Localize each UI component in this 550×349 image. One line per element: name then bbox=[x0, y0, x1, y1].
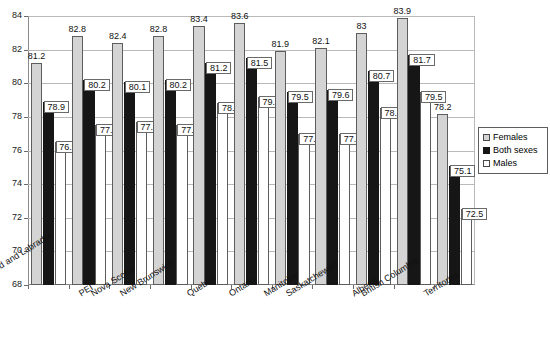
legend-swatch-males-icon bbox=[483, 160, 490, 167]
y-tick-label: 78 bbox=[0, 112, 22, 121]
bar-males bbox=[461, 209, 472, 285]
bar-value-label: 83.4 bbox=[186, 14, 211, 24]
bar-females bbox=[397, 18, 408, 285]
bar-value-label: 82.4 bbox=[105, 31, 130, 41]
x-tick-mark bbox=[28, 285, 29, 289]
y-tick-mark bbox=[24, 117, 28, 118]
bar-females bbox=[437, 114, 448, 285]
bar-both-sexes bbox=[408, 55, 419, 285]
bar-males bbox=[95, 125, 106, 285]
bar-females bbox=[356, 33, 367, 285]
bar-value-label: 78.2 bbox=[430, 102, 455, 112]
bar-value-label: 82.8 bbox=[65, 24, 90, 34]
bar-females bbox=[153, 36, 164, 285]
x-tick-mark bbox=[312, 285, 313, 289]
bar-both-sexes bbox=[165, 80, 176, 285]
legend-label: Both sexes bbox=[493, 144, 538, 157]
bar-value-label: 79.5 bbox=[288, 91, 313, 103]
bar-value-label: 83.6 bbox=[227, 11, 252, 21]
plot-area: 81.278.976.582.880.277.582.480.177.782.8… bbox=[28, 16, 475, 285]
bar-both-sexes bbox=[43, 102, 54, 285]
bar-both-sexes bbox=[327, 90, 338, 285]
y-tick-mark bbox=[24, 218, 28, 219]
bar-value-label: 81.2 bbox=[206, 62, 231, 74]
bar-females bbox=[193, 26, 204, 285]
bar-value-label: 79.6 bbox=[328, 89, 353, 101]
y-tick-mark bbox=[24, 16, 28, 17]
bar-both-sexes bbox=[287, 92, 298, 285]
bar-males bbox=[380, 108, 391, 285]
bar-value-label: 80.2 bbox=[84, 79, 109, 91]
bar-both-sexes bbox=[368, 71, 379, 285]
x-tick-mark bbox=[69, 285, 70, 289]
y-tick-label: 72 bbox=[0, 213, 22, 222]
bar-value-label: 80.1 bbox=[125, 81, 150, 93]
y-tick-label: 74 bbox=[0, 179, 22, 188]
legend-label: Females bbox=[493, 131, 528, 144]
bar-males bbox=[339, 134, 350, 285]
chart-legend: FemalesBoth sexesMales bbox=[478, 127, 548, 174]
y-tick-label: 82 bbox=[0, 45, 22, 54]
bar-value-label: 82.8 bbox=[146, 24, 171, 34]
y-tick-label: 84 bbox=[0, 11, 22, 20]
bar-value-label: 78.9 bbox=[44, 101, 69, 113]
bar-both-sexes bbox=[246, 58, 257, 285]
bar-females bbox=[112, 43, 123, 285]
bar-value-label: 82.1 bbox=[308, 36, 333, 46]
bar-value-label: 80.2 bbox=[166, 79, 191, 91]
y-tick-label: 68 bbox=[0, 280, 22, 289]
bar-value-label: 83.9 bbox=[390, 6, 415, 16]
legend-swatch-both-icon bbox=[483, 147, 490, 154]
bar-value-label: 83 bbox=[349, 21, 374, 31]
bar-females bbox=[234, 23, 245, 285]
bar-males bbox=[217, 103, 228, 285]
y-tick-mark bbox=[24, 83, 28, 84]
x-tick-mark bbox=[150, 285, 151, 289]
bar-value-label: 72.5 bbox=[462, 208, 487, 220]
gridline bbox=[28, 50, 475, 51]
bar-males bbox=[136, 122, 147, 285]
bar-value-label: 81.2 bbox=[24, 51, 49, 61]
bar-both-sexes bbox=[449, 166, 460, 285]
y-tick-mark bbox=[24, 151, 28, 152]
bar-both-sexes bbox=[83, 80, 94, 285]
legend-swatch-females-icon bbox=[483, 134, 490, 141]
y-tick-label: 80 bbox=[0, 78, 22, 87]
bar-females bbox=[31, 63, 42, 285]
bar-both-sexes bbox=[124, 82, 135, 285]
legend-item-females: Females bbox=[483, 131, 544, 144]
bar-females bbox=[315, 48, 326, 285]
y-tick-mark bbox=[24, 50, 28, 51]
bar-females bbox=[275, 51, 286, 285]
x-tick-mark bbox=[394, 285, 395, 289]
bar-value-label: 80.7 bbox=[369, 70, 394, 82]
bar-females bbox=[72, 36, 83, 285]
bar-both-sexes bbox=[205, 63, 216, 285]
legend-label: Males bbox=[493, 157, 517, 170]
bar-males bbox=[258, 97, 269, 285]
bar-value-label: 81.7 bbox=[409, 54, 434, 66]
bar-males bbox=[176, 125, 187, 285]
legend-item-males: Males bbox=[483, 157, 544, 170]
bar-males bbox=[420, 92, 431, 285]
bar-chart: 81.278.976.582.880.277.582.480.177.782.8… bbox=[0, 0, 550, 349]
bar-value-label: 75.1 bbox=[450, 165, 475, 177]
y-tick-label: 76 bbox=[0, 146, 22, 155]
bar-males bbox=[298, 134, 309, 285]
bar-value-label: 81.5 bbox=[247, 57, 272, 69]
bar-males bbox=[55, 142, 66, 285]
bar-value-label: 81.9 bbox=[268, 39, 293, 49]
y-tick-mark bbox=[24, 184, 28, 185]
legend-item-both: Both sexes bbox=[483, 144, 544, 157]
